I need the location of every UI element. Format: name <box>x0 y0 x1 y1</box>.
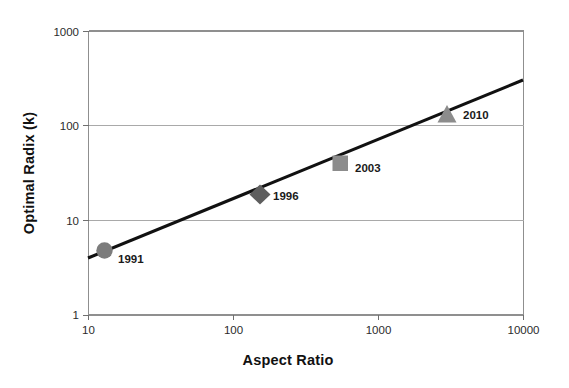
point-label-1996: 1996 <box>273 190 299 202</box>
marker-square-2003[interactable] <box>333 156 349 172</box>
point-label-2010: 2010 <box>463 109 489 121</box>
x-axis-title: Aspect Ratio <box>242 352 333 368</box>
y-tick-label-1000: 1000 <box>53 26 79 38</box>
y-axis-title: Optimal Radix (k) <box>21 112 37 235</box>
point-label-1991: 1991 <box>118 253 144 265</box>
y-tick-label-100: 100 <box>60 120 79 132</box>
point-label-2003: 2003 <box>355 162 381 174</box>
x-tick-label-10000: 10000 <box>508 324 540 336</box>
x-tick-label-100: 100 <box>224 324 243 336</box>
marker-circle-1991[interactable] <box>96 242 112 258</box>
y-tick-label-10: 10 <box>66 215 79 227</box>
x-tick-label-10: 10 <box>82 324 95 336</box>
y-tick-label-1: 1 <box>73 309 79 321</box>
chart-container: 1000 100 10 1 10 100 1000 10000 1991 199… <box>0 0 569 388</box>
x-tick-label-1000: 1000 <box>366 324 392 336</box>
log-log-scatter-chart: 1000 100 10 1 10 100 1000 10000 1991 199… <box>0 0 569 388</box>
